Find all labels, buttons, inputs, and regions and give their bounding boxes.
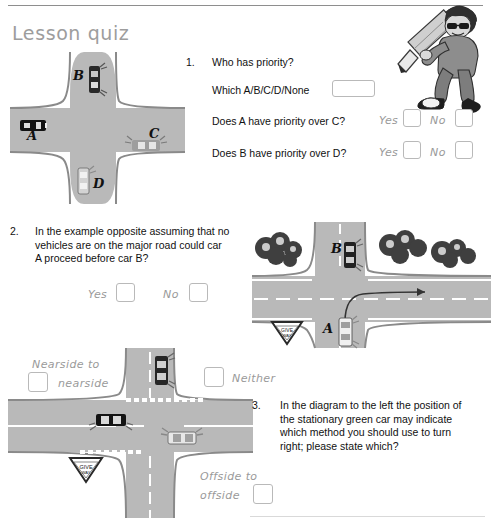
question-2-yes-label: Yes: [88, 288, 107, 301]
offside-to-offside-checkbox[interactable]: [253, 484, 273, 504]
t-junction-diagram: GIVE WAY B A: [252, 200, 491, 348]
nearside-label-line2: nearside: [58, 377, 109, 390]
tjunction-car-label-a: A: [323, 321, 333, 336]
question-2-no-checkbox[interactable]: [189, 283, 208, 302]
svg-text:WAY: WAY: [82, 470, 91, 475]
question-3-number: 3.: [252, 399, 261, 411]
question-1-sub-label: Which A/B/C/D/None: [212, 84, 342, 98]
question-1-number: 1.: [186, 56, 195, 68]
question-2-number: 2.: [10, 225, 19, 237]
question-1-text: Who has priority?: [212, 56, 392, 70]
neither-checkbox[interactable]: [204, 367, 224, 387]
question-1-row-1-prompt: Does B have priority over D?: [212, 147, 392, 161]
nearside-label-line1: Nearside to: [32, 358, 100, 371]
cartoon-student-with-pencil: [396, 2, 491, 120]
svg-text:WAY: WAY: [283, 333, 292, 338]
row-1-yes-checkbox[interactable]: [403, 141, 421, 159]
offside-label-line2: offside: [200, 489, 240, 502]
car-label-b: B: [73, 68, 84, 83]
question-2-no-label: No: [163, 288, 179, 301]
row-1-yes-label: Yes: [379, 146, 398, 159]
neither-label: Neither: [232, 372, 275, 385]
tjunction-car-label-b: B: [331, 241, 342, 256]
car-label-a: A: [27, 128, 37, 143]
question-2-yes-checkbox[interactable]: [116, 283, 135, 302]
footer-divider: [250, 516, 485, 517]
nearside-to-nearside-checkbox[interactable]: [28, 372, 48, 392]
car-label-c: C: [149, 126, 159, 141]
row-0-no-label: No: [430, 114, 446, 127]
page-title: Lesson quiz: [12, 22, 129, 44]
question-3-text: In the diagram to the left the position …: [280, 399, 470, 453]
row-0-yes-label: Yes: [379, 114, 398, 127]
question-1-row-0-prompt: Does A have priority over C?: [212, 115, 392, 129]
row-0-no-checkbox[interactable]: [455, 109, 473, 127]
row-1-no-checkbox[interactable]: [455, 141, 473, 159]
question-2-text: In the example opposite assuming that no…: [35, 225, 230, 266]
which-answer-input[interactable]: [332, 80, 375, 97]
crossroads-diagram: B A C D: [10, 52, 185, 204]
row-0-yes-checkbox[interactable]: [403, 109, 421, 127]
quiz-page: Lesson quiz: [0, 0, 491, 526]
car-label-d: D: [93, 176, 104, 191]
row-1-no-label: No: [430, 146, 446, 159]
offside-label-line1: Offside to: [200, 470, 257, 483]
